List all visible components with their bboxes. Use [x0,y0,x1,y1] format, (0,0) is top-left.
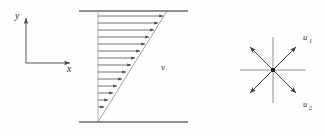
star-label-u2: u [303,99,307,109]
star-label-u2-group: u 2 [303,99,312,111]
fluid-mechanics-figure: y x [0,0,325,136]
velocity-arrows-group [98,16,163,107]
x-axis-label: x [66,64,72,74]
star-label-u1-subscript: 1 [309,38,312,44]
figure-root: y x [0,0,325,136]
star-center-node [271,68,275,72]
couette-flow-group: v [79,11,188,122]
velocity-label: v [161,62,165,72]
star-label-u1: u [303,32,307,42]
coordinate-axes-group: y x [14,11,72,74]
star-arrow-lower-right [273,70,296,93]
star-arrow-upper-left [250,47,273,70]
star-arrow-upper-right [273,47,296,70]
star-label-u1-group: u 1 [303,32,312,44]
star-diagram-group: u 1 u 2 [240,32,312,111]
y-axis-label: y [14,11,20,21]
velocity-profile-envelope [98,11,167,122]
star-arrow-lower-left [250,70,273,93]
star-label-u2-subscript: 2 [309,105,312,111]
